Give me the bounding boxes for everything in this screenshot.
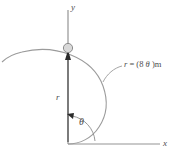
radius-label: r — [56, 93, 60, 102]
equation-operator: = (8 — [127, 59, 145, 69]
particle-marker — [63, 43, 72, 52]
x-axis-label: x — [163, 139, 167, 148]
polar-spiral-figure: y x r θ r = (8 θ )m — [0, 0, 180, 160]
figure-canvas — [0, 0, 180, 160]
y-axis-label: y — [71, 3, 75, 12]
spiral-curve — [2, 50, 106, 144]
curve-equation-label: r = (8 θ )m — [124, 60, 161, 69]
equation-units: )m — [150, 59, 162, 69]
angle-label: θ — [79, 117, 84, 127]
equation-leader-line — [103, 66, 122, 82]
